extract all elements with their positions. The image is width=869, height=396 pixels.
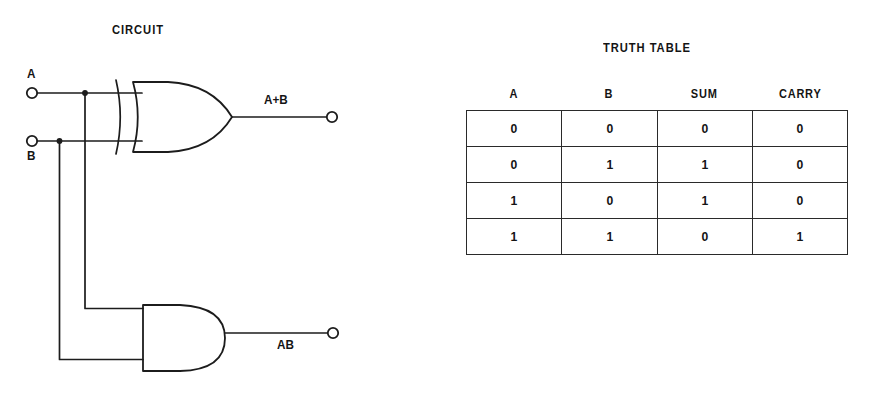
cell-carry: 0 [752,111,847,147]
cell-sum: 0 [657,219,752,255]
cell-sum: 1 [657,183,752,219]
cell-b: 0 [562,183,657,219]
input-b-label: B [27,148,35,163]
truth-table-container: A B SUM CARRY 0 0 0 0 0 1 1 0 [466,84,848,255]
wire-a-branch-to-and [85,93,143,309]
truth-table-title: TRUTH TABLE [603,40,691,55]
output-carry-label: AB [277,337,294,352]
table-row: 1 1 0 1 [467,219,848,255]
xor-extra-arc [116,80,120,154]
input-a-terminal [27,88,37,98]
cell-a: 0 [467,147,562,183]
truth-table: A B SUM CARRY 0 0 0 0 0 1 1 0 [466,84,848,255]
cell-b: 1 [562,147,657,183]
column-header-carry: CARRY [752,84,847,111]
table-row: 0 0 0 0 [467,111,848,147]
column-header-sum: SUM [657,84,752,111]
truth-table-header-row: A B SUM CARRY [467,84,848,111]
column-header-a: A [467,84,562,111]
cell-a: 1 [467,183,562,219]
cell-a: 0 [467,111,562,147]
and-gate-body [143,305,225,371]
column-header-b: B [562,84,657,111]
junction-dot-a [82,90,88,96]
cell-sum: 0 [657,111,752,147]
output-carry-terminal [328,328,338,338]
table-row: 0 1 1 0 [467,147,848,183]
table-row: 1 0 1 0 [467,183,848,219]
half-adder-figure: CIRCUIT [0,0,869,396]
cell-a: 1 [467,219,562,255]
junction-dot-b [57,138,63,144]
cell-sum: 1 [657,147,752,183]
output-sum-terminal [327,112,337,122]
input-b-terminal [27,136,37,146]
cell-b: 0 [562,111,657,147]
xor-gate-body [133,82,232,152]
circuit-schematic [0,0,440,396]
input-a-label: A [27,66,35,81]
cell-carry: 0 [752,183,847,219]
cell-carry: 0 [752,147,847,183]
cell-b: 1 [562,219,657,255]
wire-b-branch-to-and [60,141,144,360]
cell-carry: 1 [752,219,847,255]
output-sum-label: A+B [264,92,288,107]
